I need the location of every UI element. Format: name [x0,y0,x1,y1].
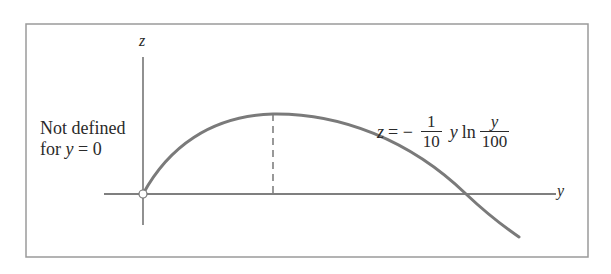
eq-fraction-coefficient: 1 10 [421,113,442,150]
function-equation: z = − 1 10 y ln y 100 [377,113,513,150]
chart-figure: z y Not defined for y = 0 z = − 1 10 y l… [0,0,611,274]
eq-equals: = − [388,123,413,141]
eq-variable: y [450,123,458,141]
eq-fraction-argument: y 100 [480,113,510,150]
open-circle-origin-icon [139,190,147,198]
eq-frac2-numerator: y [489,113,501,131]
note-suffix: = 0 [74,139,102,159]
note-variable: y [66,139,74,159]
y-axis-label: y [557,183,564,199]
undefined-note-line1: Not defined [40,118,125,139]
z-axis-label: z [139,33,145,49]
eq-lhs: z [377,123,384,141]
eq-ln: ln [462,123,476,141]
note-prefix: for [40,139,66,159]
undefined-note: Not defined for y = 0 [40,118,125,160]
eq-frac1-numerator: 1 [425,113,438,131]
eq-frac1-denominator: 10 [421,131,442,150]
undefined-note-line2: for y = 0 [40,139,125,160]
eq-frac2-denominator: 100 [480,131,510,150]
